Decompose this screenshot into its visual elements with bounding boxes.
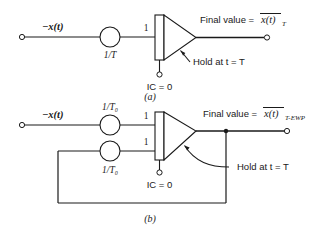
output-prefix-a: Final value =	[200, 14, 255, 25]
block-diagram-svg: −x(t) 1/T 1 IC = 0 Hold at t = T Final v…	[0, 0, 315, 231]
gain-block-top-b[interactable]	[100, 115, 120, 135]
gain-label-top-b: 1/T₀	[102, 102, 118, 112]
ic-label-b: IC = 0	[147, 179, 173, 190]
gain-block-bottom-b[interactable]	[100, 141, 120, 161]
hold-arrow-curve-b	[185, 146, 230, 168]
integrator-input-gain-top-b: 1	[144, 111, 149, 121]
output-terminal-a[interactable]	[264, 35, 269, 40]
integrator-input-bar-b[interactable]	[155, 112, 164, 160]
input-label-a: −x(t)	[42, 21, 64, 33]
hold-label-a: Hold at t = T	[193, 56, 245, 67]
integrator-triangle-a[interactable]	[164, 15, 196, 60]
gain-label-bottom-b: 1/T₀	[102, 165, 118, 175]
figure-container: −x(t) 1/T 1 IC = 0 Hold at t = T Final v…	[0, 0, 315, 231]
caption-b: (b)	[144, 213, 156, 225]
ic-terminal-a[interactable]	[157, 72, 162, 77]
input-terminal-a[interactable]	[19, 34, 24, 39]
integrator-input-gain-bottom-b: 1	[144, 137, 149, 147]
diagram-b: −x(t) 1/T₀ 1 1/T₀ 1 IC = 0 Hold at t = T	[19, 102, 305, 225]
input-terminal-b[interactable]	[19, 122, 24, 127]
hold-label-b: Hold at t = T	[237, 161, 289, 172]
integrator-input-bar-a[interactable]	[155, 15, 164, 60]
gain-label-a: 1/T	[104, 50, 117, 60]
output-expression-a: x(t)	[260, 14, 276, 26]
output-prefix-b: Final value =	[203, 108, 258, 119]
diagram-a: −x(t) 1/T 1 IC = 0 Hold at t = T Final v…	[19, 14, 287, 104]
feedback-junction-dot-b	[224, 129, 228, 133]
output-subscript-a: T	[282, 20, 287, 28]
output-terminal-b[interactable]	[284, 128, 289, 133]
hold-arrow-head-b	[185, 146, 190, 151]
ic-terminal-b[interactable]	[157, 170, 162, 175]
input-label-b: −x(t)	[42, 109, 64, 121]
gain-block-a[interactable]	[100, 27, 120, 47]
integrator-triangle-b[interactable]	[164, 112, 196, 160]
output-expression-b: x(t)	[263, 108, 279, 120]
integrator-input-gain-a: 1	[144, 23, 149, 33]
caption-a: (a)	[144, 91, 156, 103]
output-subscript-b: T-EWP	[285, 114, 306, 122]
